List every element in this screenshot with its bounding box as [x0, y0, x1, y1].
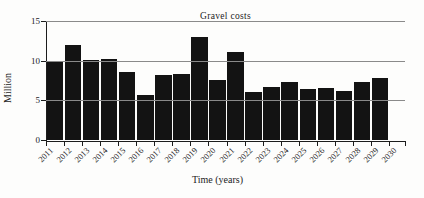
y-tick-label-10: 10: [0, 56, 40, 67]
x-tick-label-text-2021: 2021: [217, 146, 235, 164]
gravel-costs-bar-chart: Gravel costs Million 2030202920282027202…: [0, 0, 424, 198]
chart-title: Gravel costs: [46, 11, 405, 21]
x-tick-2013: [82, 142, 83, 146]
bar-2024: [281, 82, 297, 141]
bar-2012: [65, 45, 81, 141]
x-tick-2027: [335, 142, 336, 146]
x-tick-2017: [154, 142, 155, 146]
y-tick-label-0: 0: [0, 135, 40, 146]
bar-2020: [209, 80, 225, 140]
bar-2016: [137, 95, 153, 140]
x-tick-2030: [389, 142, 390, 146]
x-tick-2028: [353, 142, 354, 146]
x-axis-end-tick: [405, 142, 406, 146]
x-tick-label-text-2026: 2026: [308, 146, 326, 164]
x-tick-label-text-2027: 2027: [326, 146, 344, 164]
x-tick-2018: [172, 142, 173, 146]
x-tick-label-text-2029: 2029: [362, 146, 380, 164]
x-tick-label-text-2024: 2024: [272, 146, 290, 164]
x-tick-2011: [46, 142, 47, 146]
gridline-10: [46, 61, 405, 62]
bar-2029: [372, 78, 388, 141]
x-axis-line: [46, 141, 406, 142]
x-tick-2014: [100, 142, 101, 146]
x-tick-2021: [227, 142, 228, 146]
gridline-5: [46, 100, 405, 101]
bar-2019: [191, 37, 207, 140]
x-tick-2029: [371, 142, 372, 146]
bar-2025: [300, 89, 316, 141]
bar-2018: [173, 74, 189, 141]
x-tick-2023: [263, 142, 264, 146]
x-tick-2024: [281, 142, 282, 146]
x-axis-label: Time (years): [46, 174, 389, 185]
x-tick-2019: [190, 142, 191, 146]
x-tick-label-text-2023: 2023: [254, 146, 272, 164]
x-tick-label-text-2018: 2018: [163, 146, 181, 164]
x-tick-label-text-2025: 2025: [290, 146, 308, 164]
bar-2027: [336, 91, 352, 140]
x-tick-2012: [64, 142, 65, 146]
x-tick-2016: [136, 142, 137, 146]
x-tick-2020: [208, 142, 209, 146]
y-tick-label-5: 5: [0, 95, 40, 106]
x-tick-2022: [245, 142, 246, 146]
x-tick-label-text-2016: 2016: [127, 146, 145, 164]
x-tick-label-text-2017: 2017: [145, 146, 163, 164]
x-tick-label-text-2015: 2015: [109, 146, 127, 164]
bar-2015: [119, 72, 135, 140]
bar-2026: [318, 88, 334, 140]
x-tick-label-text-2030: 2030: [380, 146, 398, 164]
x-tick-2015: [118, 142, 119, 146]
x-tick-label-text-2028: 2028: [344, 146, 362, 164]
bar-2017: [155, 75, 171, 141]
x-tick-2025: [299, 142, 300, 146]
bar-2023: [263, 87, 279, 141]
x-tick-label-text-2013: 2013: [73, 146, 91, 164]
x-tick-label-text-2014: 2014: [91, 146, 109, 164]
bar-2021: [227, 52, 243, 140]
x-tick-label-text-2012: 2012: [55, 146, 73, 164]
x-tick-label-text-2011: 2011: [37, 146, 55, 164]
x-tick-label-text-2019: 2019: [181, 146, 199, 164]
x-tick-2026: [317, 142, 318, 146]
x-tick-label-text-2022: 2022: [236, 146, 254, 164]
x-tick-label-text-2020: 2020: [199, 146, 217, 164]
bar-2028: [354, 82, 370, 141]
y-tick-label-15: 15: [0, 16, 40, 27]
gridline-15: [46, 21, 405, 22]
